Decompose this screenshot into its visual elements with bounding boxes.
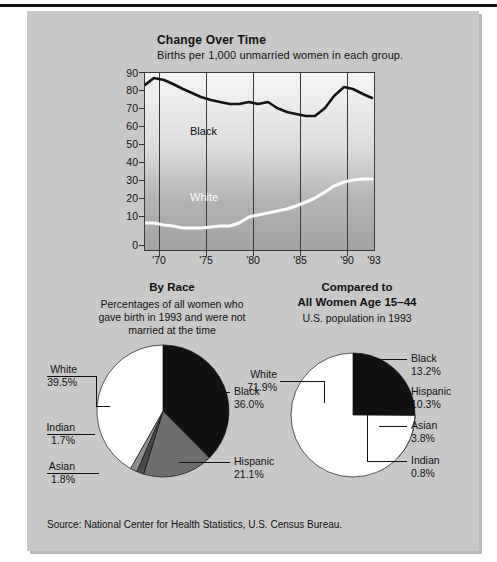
- leader-line-white-right-vert: [324, 381, 325, 403]
- leader-line-black-right-vert: [367, 359, 368, 377]
- all-women-pie-svg: [289, 351, 417, 479]
- all-women-pie-chart: [289, 351, 417, 483]
- leader-line-black: [202, 392, 230, 393]
- infographic-panel: Change Over Time Births per 1,000 unmarr…: [27, 11, 479, 551]
- y-tick-label-20: 20: [112, 192, 138, 204]
- source-note: Source: National Center for Health Stati…: [47, 519, 342, 530]
- leader-line-white-vert: [96, 376, 97, 406]
- leader-line-asian-right: [379, 426, 407, 427]
- y-tick-label-10: 10: [112, 210, 138, 222]
- leader-line-white-end: [96, 406, 110, 407]
- all-women-subtitle: U.S. population in 1993: [282, 312, 432, 325]
- series-label-white: White: [190, 191, 218, 203]
- y-tick-label-30: 30: [112, 174, 138, 186]
- infographic-root: Change Over Time Births per 1,000 unmarr…: [0, 0, 497, 562]
- by-race-title: By Race: [82, 281, 262, 293]
- all-women-title-line1: Compared to: [282, 281, 432, 293]
- label-indian-value: 1.7%: [13, 434, 75, 447]
- label-asian-value: 1.8%: [13, 473, 75, 486]
- x-tick-label-85: '85: [285, 254, 315, 266]
- series-line-white: [145, 179, 372, 228]
- label-white-name-right: White: [229, 368, 277, 381]
- line-chart-plot-area: Black White: [144, 72, 375, 251]
- line-chart-svg: [145, 73, 374, 250]
- x-tick-label-70: '70: [144, 254, 174, 266]
- label-hispanic-value-right: 10.3%: [411, 398, 491, 411]
- label-indian-name-right: Indian: [411, 454, 491, 467]
- line-chart-title: Change Over Time: [157, 33, 266, 47]
- year-gridlines: [160, 73, 348, 250]
- label-indian-name: Indian: [13, 421, 75, 434]
- leader-line-black-right: [367, 359, 407, 360]
- leader-line-indian-right-vert: [367, 415, 368, 462]
- by-race-subtitle-line2: gave birth in 1993 and were not: [72, 311, 272, 324]
- leader-line-hispanic-right: [379, 392, 407, 393]
- x-tick-label-90: '90: [332, 254, 362, 266]
- label-black-name-right: Black: [411, 352, 491, 365]
- all-women-title-line2: All Women Age 15–44: [282, 296, 432, 308]
- y-tick-label-0: 0: [112, 239, 138, 251]
- label-asian-name: Asian: [13, 460, 75, 473]
- y-tick-label-90: 90: [112, 67, 138, 79]
- top-divider-rule: [0, 4, 497, 7]
- y-tick-label-70: 70: [112, 102, 138, 114]
- x-tick-label-75: '75: [191, 254, 221, 266]
- line-chart-subtitle: Births per 1,000 unmarried women in each…: [157, 49, 403, 61]
- x-tick-label-80: '80: [238, 254, 268, 266]
- label-white-value: 39.5%: [15, 376, 77, 389]
- leader-line-white-right: [280, 381, 325, 382]
- label-black-value-right: 13.2%: [411, 365, 491, 378]
- by-race-pie-svg: [95, 343, 231, 479]
- label-white-value-right: 71.9%: [229, 381, 277, 394]
- label-asian-name-right: Asian: [411, 419, 491, 432]
- label-asian-value-right: 3.8%: [411, 432, 491, 445]
- label-indian-value-right: 0.8%: [411, 467, 491, 480]
- y-tick-label-80: 80: [112, 84, 138, 96]
- by-race-subtitle-line3: married at the time: [72, 324, 272, 337]
- y-tick-label-40: 40: [112, 156, 138, 168]
- series-line-black: [145, 78, 372, 116]
- leader-line-hispanic: [179, 462, 230, 463]
- series-label-black: Black: [190, 125, 217, 137]
- y-tick-label-50: 50: [112, 138, 138, 150]
- label-white-name: White: [15, 363, 77, 376]
- x-tick-label-93: '93: [359, 254, 389, 266]
- label-hispanic-name-right: Hispanic: [411, 385, 491, 398]
- y-tick-label-60: 60: [112, 120, 138, 132]
- by-race-subtitle-line1: Percentages of all women who: [72, 298, 272, 311]
- leader-line-indian-right: [367, 461, 407, 462]
